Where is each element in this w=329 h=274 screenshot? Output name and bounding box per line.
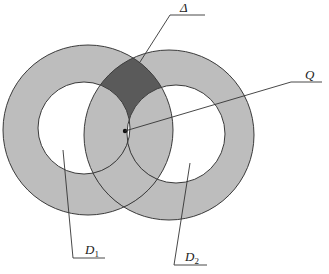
annuli-diagram: Δ Q D1 D2 (0, 0, 329, 274)
overlap-lower-region (0, 118, 329, 274)
q-label: Q (305, 67, 315, 82)
delta-label: Δ (179, 0, 188, 15)
